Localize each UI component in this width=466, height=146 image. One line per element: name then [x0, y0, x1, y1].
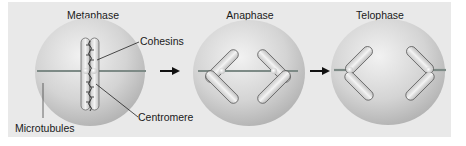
arrow-icon	[310, 67, 330, 75]
arrow-icon	[160, 67, 180, 75]
telophase-stage: Telophase	[331, 9, 446, 125]
centromere-right	[426, 67, 432, 73]
centromere-left	[347, 67, 353, 73]
mitosis-diagram: Metaphase Cohesins Centromere Microtubul…	[0, 0, 466, 146]
kinetochore-right	[91, 68, 97, 74]
anaphase-stage: Anaphase	[193, 9, 305, 126]
cohesins-label: Cohesins	[140, 35, 184, 47]
kinetochore-left	[83, 68, 89, 74]
centromere-label: Centromere	[138, 111, 194, 123]
stage-label-anaphase: Anaphase	[226, 9, 273, 21]
centromere-left	[219, 68, 225, 74]
stage-label-telophase: Telophase	[356, 9, 404, 21]
centromere-right	[271, 68, 277, 74]
microtubules-label: Microtubules	[15, 122, 75, 134]
